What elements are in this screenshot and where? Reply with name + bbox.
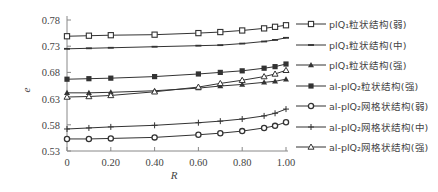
y-tick-label: 0.53 (42, 146, 60, 157)
legend-label: plQ₁粒状结构(弱) (329, 17, 406, 31)
legend-label: plQ₁粒状结构(中) (329, 38, 406, 52)
series-open-square (64, 23, 288, 39)
chart-series (64, 23, 289, 142)
legend-item: al-plQ₂网格状结构(弱) (296, 96, 428, 117)
y-tick-label: 0.58 (42, 120, 60, 131)
x-tick-label: 0.60 (189, 157, 207, 168)
legend-item: al-plQ₂网格状结构(强) (296, 137, 428, 158)
x-tick-label: 0.80 (233, 157, 251, 168)
series-open-circle (64, 120, 288, 142)
legend-item: plQ₁粒状结构(弱) (296, 14, 428, 35)
series-plus (64, 106, 289, 132)
legend-label: plQ₁粒状结构(强) (329, 58, 406, 72)
series-filled-square (64, 61, 288, 81)
legend-marker-dash-icon (296, 39, 326, 51)
legend-marker-filled-square-icon (296, 80, 326, 92)
x-tick-label: 0 (64, 157, 69, 168)
legend-item: al-plQ₂粒状结构(强) (296, 76, 428, 97)
y-tick-label: 0.73 (42, 41, 60, 52)
legend-marker-open-square-icon (296, 18, 326, 30)
series-filled-triangle (64, 76, 289, 95)
legend-marker-open-triangle-icon (296, 141, 326, 153)
legend-marker-filled-triangle-icon (296, 59, 326, 71)
chart-legend: plQ₁粒状结构(弱)plQ₁粒状结构(中)plQ₁粒状结构(强)al-plQ₂… (296, 14, 428, 158)
y-tick-label: 0.63 (42, 94, 60, 105)
legend-label: al-plQ₂网格状结构(强) (329, 140, 428, 154)
x-axis-title: R (170, 169, 178, 181)
y-axis-title: e (20, 87, 32, 92)
legend-label: al-plQ₂粒状结构(强) (329, 79, 418, 93)
legend-item: plQ₁粒状结构(中) (296, 35, 428, 56)
legend-label: al-plQ₂网格状结构(弱) (329, 99, 428, 113)
x-tick-label: 0.20 (102, 157, 120, 168)
chart-axes: 0.780.730.680.630.580.5300.200.400.600.8… (42, 15, 296, 168)
legend-label: al-plQ₂网格状结构(中) (329, 120, 428, 134)
x-tick-label: 0.40 (145, 157, 163, 168)
legend-item: plQ₁粒状结构(强) (296, 55, 428, 76)
x-tick-label: 1.00 (277, 157, 295, 168)
legend-item: al-plQ₂网格状结构(中) (296, 117, 428, 138)
series-dash (64, 38, 289, 49)
y-tick-label: 0.68 (42, 67, 60, 78)
legend-marker-plus-icon (296, 121, 326, 133)
legend-marker-open-circle-icon (296, 100, 326, 112)
y-tick-label: 0.78 (42, 15, 60, 26)
